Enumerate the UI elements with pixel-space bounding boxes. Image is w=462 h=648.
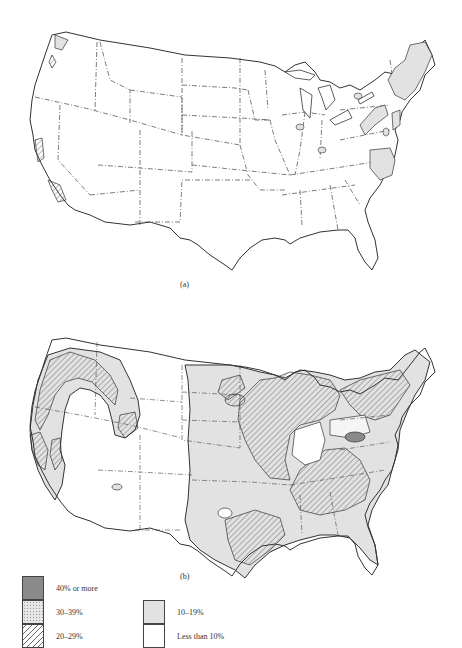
legend-label: Less than 10% — [177, 632, 224, 641]
us-map-panel-b — [0, 320, 462, 580]
legend-label: 20–29% — [56, 632, 83, 641]
legend-swatch-dark — [22, 576, 44, 600]
legend-swatch-white — [143, 624, 165, 648]
region-dark — [345, 432, 365, 442]
legend-swatch-stippled — [22, 600, 44, 624]
legend-label: 10–19% — [177, 608, 204, 617]
legend-label: 40% or more — [56, 584, 98, 593]
legend-item-less-10: Less than 10% — [143, 624, 224, 648]
legend-item-20-29: 20–29% — [22, 624, 83, 648]
panel-a-caption: (a) — [180, 280, 189, 289]
legend-label: 30–39% — [56, 608, 83, 617]
legend-swatch-hatched — [22, 624, 44, 648]
panel-b-caption: (b) — [180, 572, 189, 581]
legend-item-40-plus: 40% or more — [22, 576, 98, 600]
legend-item-10-19: 10–19% — [143, 600, 204, 624]
us-map-panel-a — [0, 0, 462, 300]
legend-swatch-light — [143, 600, 165, 624]
legend-item-30-39: 30–39% — [22, 600, 83, 624]
